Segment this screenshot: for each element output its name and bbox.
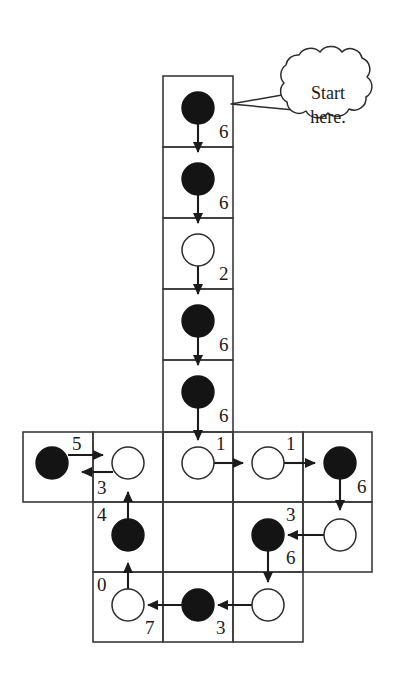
cell-label: 1 — [216, 434, 226, 453]
token-filled[interactable] — [182, 92, 214, 124]
token-filled[interactable] — [252, 519, 284, 551]
cell-label: 6 — [219, 122, 229, 141]
cell-label: 3 — [286, 505, 296, 524]
tokens — [36, 92, 356, 621]
cell-label: 6 — [219, 406, 229, 425]
token-filled[interactable] — [182, 589, 214, 621]
cell-label: 6 — [219, 335, 229, 354]
token-empty[interactable] — [112, 589, 144, 621]
token-filled[interactable] — [182, 163, 214, 195]
token-filled[interactable] — [182, 376, 214, 408]
cell-label: 6 — [219, 193, 229, 212]
cell-label: 7 — [145, 618, 155, 637]
token-empty[interactable] — [252, 447, 284, 479]
figure-canvas: 6 6 2 6 6 5 3 1 1 6 4 3 6 0 7 3 Start he… — [0, 0, 399, 678]
cell-label: 6 — [357, 477, 367, 496]
token-filled[interactable] — [324, 447, 356, 479]
token-filled[interactable] — [112, 519, 144, 551]
cell-label: 1 — [286, 434, 296, 453]
callout-line-1: Start — [298, 82, 358, 105]
cell-label: 2 — [219, 264, 229, 283]
cell-label: 4 — [97, 505, 107, 524]
token-empty[interactable] — [182, 234, 214, 266]
arrows — [68, 124, 340, 605]
token-empty[interactable] — [324, 519, 356, 551]
token-empty[interactable] — [252, 589, 284, 621]
cell-label: 3 — [216, 618, 226, 637]
cell-label: 0 — [97, 575, 107, 594]
cell-l2 — [163, 502, 233, 572]
cell-label: 3 — [97, 478, 107, 497]
token-filled[interactable] — [36, 447, 68, 479]
token-filled[interactable] — [182, 305, 214, 337]
cell-label: 5 — [72, 434, 82, 453]
token-empty[interactable] — [182, 447, 214, 479]
cell-label: 6 — [286, 548, 296, 567]
token-empty[interactable] — [112, 447, 144, 479]
callout-line-2: here. — [298, 106, 358, 129]
